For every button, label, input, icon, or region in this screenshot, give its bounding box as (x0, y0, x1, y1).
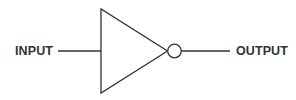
buffer-triangle (101, 9, 168, 93)
not-gate-diagram: INPUT OUTPUT (0, 0, 296, 100)
inversion-bubble (168, 44, 182, 58)
input-label: INPUT (15, 45, 53, 58)
output-label: OUTPUT (236, 45, 288, 58)
